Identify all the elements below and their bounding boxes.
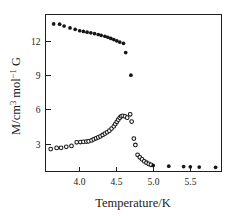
data-point	[124, 51, 128, 55]
data-point	[129, 73, 133, 77]
y-tick-label: 6	[36, 105, 41, 115]
x-tick-label: 5.0	[148, 177, 160, 187]
data-point	[78, 29, 82, 33]
data-point	[62, 24, 66, 28]
data-point	[132, 137, 136, 141]
data-point	[58, 22, 62, 26]
data-point	[75, 140, 79, 144]
data-point	[151, 164, 155, 168]
data-point	[214, 165, 218, 169]
x-tick-label: 4.0	[74, 177, 86, 187]
data-point	[85, 30, 89, 34]
data-point	[89, 31, 93, 35]
data-point	[122, 41, 126, 45]
data-point	[130, 120, 134, 124]
x-axis-label: Temperature/K	[95, 196, 170, 210]
data-point	[49, 147, 53, 151]
data-point	[99, 33, 103, 37]
data-point	[128, 112, 132, 116]
magnetization-chart-figure: 4.04.55.05.5 36912 Temperature/K M/cm3 m…	[0, 0, 232, 216]
data-point	[59, 146, 63, 150]
x-tick-label: 4.5	[111, 177, 123, 187]
data-point	[64, 145, 68, 149]
data-point	[118, 40, 122, 44]
x-tick-label: 5.5	[185, 177, 197, 187]
data-point	[167, 164, 171, 168]
y-tick-label: 12	[31, 37, 41, 47]
data-point	[93, 32, 97, 36]
y-axis-label: M/cm3 mol−1 G	[8, 57, 23, 135]
data-point	[68, 26, 72, 30]
data-point	[182, 165, 186, 169]
data-point	[188, 165, 192, 169]
y-tick-label: 9	[36, 71, 41, 81]
data-point	[125, 116, 129, 120]
y-tick-label: 3	[36, 140, 41, 150]
data-point	[73, 27, 77, 31]
data-point	[134, 143, 138, 147]
data-point	[52, 22, 56, 26]
data-point	[82, 30, 86, 34]
chart-canvas: 4.04.55.05.5 36912 Temperature/K M/cm3 m…	[0, 0, 232, 216]
data-point	[70, 144, 74, 148]
data-point	[55, 146, 59, 150]
data-point	[197, 165, 201, 169]
